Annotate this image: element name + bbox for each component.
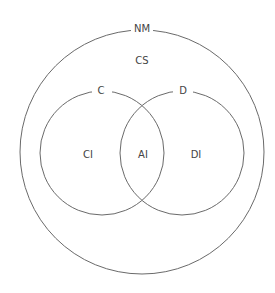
outer-label-nm: NM [134,23,150,34]
region-label-ai: AI [138,149,148,160]
region-label-cs: CS [135,55,148,66]
circle-label-c: C [98,85,105,96]
circle-label-d: D [179,85,187,96]
venn-diagram: NM CS C D CI AI DI [0,0,275,293]
region-label-ci: CI [83,149,93,160]
region-label-di: DI [191,149,202,160]
